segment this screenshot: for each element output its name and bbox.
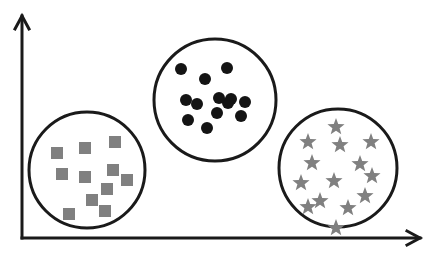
figure-canvas: Clustering scatter diagram with three la…	[0, 0, 432, 261]
cluster-squares-marker-square	[107, 164, 119, 176]
cluster-dots-marker-dot	[201, 122, 213, 134]
cluster-dots-marker-dot	[175, 63, 187, 75]
cluster-squares-marker-square	[121, 174, 133, 186]
cluster-squares-marker-square	[99, 205, 111, 217]
cluster-dots-marker-dot	[239, 96, 251, 108]
cluster-squares-marker-square	[63, 208, 75, 220]
cluster-squares-marker-square	[101, 183, 113, 195]
cluster-dots-marker-dot	[182, 114, 194, 126]
cluster-dots-marker-dot	[221, 62, 233, 74]
cluster-dots-marker-dot	[235, 110, 247, 122]
cluster-dots-marker-dot	[199, 73, 211, 85]
cluster-dots-marker-dot	[213, 92, 225, 104]
cluster-dots-marker-dot	[180, 94, 192, 106]
cluster-squares-marker-square	[86, 194, 98, 206]
cluster-diagram-figure: Clustering scatter diagram with three la…	[0, 0, 432, 261]
cluster-dots-marker-dot	[191, 98, 203, 110]
cluster-squares-marker-square	[109, 136, 121, 148]
cluster-squares-marker-square	[79, 171, 91, 183]
cluster-squares-marker-square	[56, 168, 68, 180]
cluster-dots-marker-dot	[211, 107, 223, 119]
cluster-squares-marker-square	[51, 147, 63, 159]
cluster-squares-marker-square	[79, 142, 91, 154]
